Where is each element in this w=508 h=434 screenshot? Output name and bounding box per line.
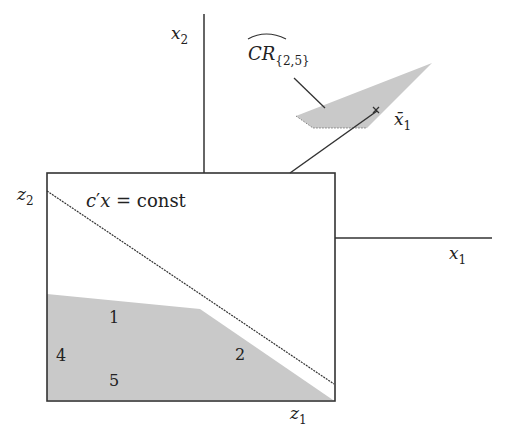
point-label: x̄1 xyxy=(394,109,411,133)
region-label-2: 2 xyxy=(235,345,245,364)
z1-label: z1 xyxy=(289,403,307,427)
cr-pointer-line xyxy=(294,78,325,108)
feasible-region-shape xyxy=(47,294,333,400)
cr-label: CR{2,5} xyxy=(248,43,310,68)
region-label-4: 4 xyxy=(56,346,66,365)
z2-label: z2 xyxy=(16,184,34,208)
critical-region-shape xyxy=(296,63,432,128)
objective-line-label: c′x = const xyxy=(86,190,187,211)
cr-hat-icon xyxy=(248,34,286,39)
region-label-1: 1 xyxy=(109,308,119,327)
diagram-canvas: x2 x1 CR{2,5} x̄1 z2 z1 c′x = const 1 2 … xyxy=(0,0,508,434)
x2-axis-label: x2 xyxy=(171,23,188,47)
x1-axis-label: x1 xyxy=(449,243,466,267)
region-label-5: 5 xyxy=(109,371,119,390)
